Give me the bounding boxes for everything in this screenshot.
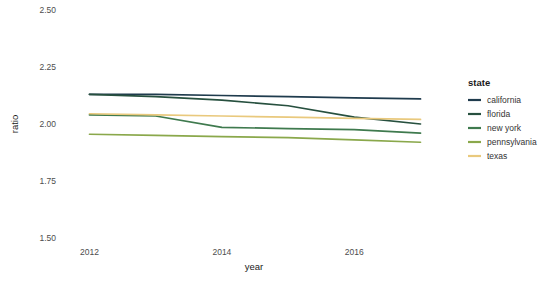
x-tick-label: 2014 <box>212 247 231 257</box>
legend-item-label: california <box>487 95 521 105</box>
y-tick-label: 2.25 <box>39 62 56 72</box>
legend-title: state <box>468 77 490 88</box>
x-axis-title: year <box>245 261 263 272</box>
legend-item-label: texas <box>487 151 507 161</box>
line-chart: 1.501.752.002.252.50 201220142016 ratio … <box>0 0 554 282</box>
legend-item-label: pennsylvania <box>487 137 537 147</box>
legend-item-label: new york <box>487 123 522 133</box>
legend-item-label: florida <box>487 109 510 119</box>
y-tick-label: 1.50 <box>39 233 56 243</box>
chart-canvas: 1.501.752.002.252.50 201220142016 ratio … <box>0 0 554 282</box>
y-axis-title: ratio <box>9 115 20 133</box>
y-tick-label: 1.75 <box>39 176 56 186</box>
y-tick-label: 2.00 <box>39 119 56 129</box>
x-tick-label: 2012 <box>80 247 99 257</box>
y-tick-label: 2.50 <box>39 5 56 15</box>
x-tick-label: 2016 <box>345 247 364 257</box>
